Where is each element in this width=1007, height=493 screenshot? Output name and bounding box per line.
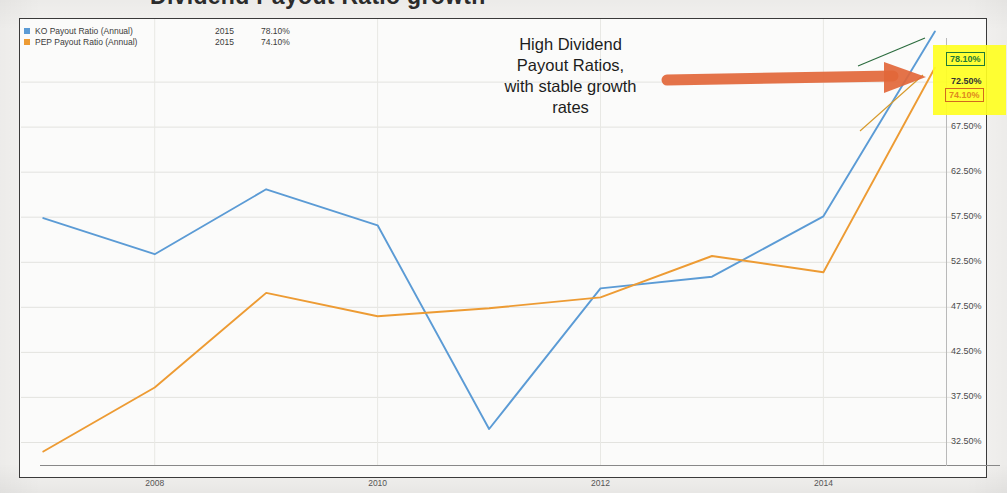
value-callout-pep: 74.10% <box>945 88 984 102</box>
y-tick-label: 47.50% <box>951 301 982 311</box>
y-tick-label: 57.50% <box>951 211 982 221</box>
annotation-line-3: with stable growth <box>463 76 678 97</box>
series-line-pep <box>43 68 935 452</box>
legend-year-ko: 2015 <box>215 26 261 37</box>
y-tick-label: 42.50% <box>951 346 982 356</box>
x-tick-label: 2008 <box>145 478 164 488</box>
y-tick-label: 52.50% <box>951 256 982 266</box>
legend-row-pep: PEP Payout Ratio (Annual)201574.10% <box>24 37 314 48</box>
legend-label-ko: KO Payout Ratio (Annual) <box>35 26 215 37</box>
y-tick-label: 67.50% <box>951 121 982 131</box>
x-tick-label: 2010 <box>368 478 387 488</box>
annotation-text-block: High Dividend Payout Ratios, with stable… <box>463 34 678 118</box>
x-axis-line <box>40 465 1000 466</box>
legend-swatch-pep <box>24 39 30 45</box>
legend-value-pep: 74.10% <box>261 37 290 48</box>
y-tick-label: 37.50% <box>951 391 982 401</box>
legend-label-pep: PEP Payout Ratio (Annual) <box>35 37 215 48</box>
y-tick-label: 32.50% <box>951 436 982 446</box>
title-text: Dividend Payout Ratio growth <box>150 0 486 10</box>
y-tick-label: 72.50% <box>951 76 982 86</box>
legend-value-ko: 78.10% <box>261 26 290 37</box>
value-callout-ko: 78.10% <box>946 52 985 66</box>
y-tick-label: 62.50% <box>951 166 982 176</box>
annotation-line-2: Payout Ratios, <box>463 55 678 76</box>
x-tick-label: 2012 <box>591 478 610 488</box>
legend-row-ko: KO Payout Ratio (Annual)201578.10% <box>24 26 314 37</box>
callout-leader-lines <box>858 38 925 131</box>
leader-line <box>860 75 923 131</box>
leader-line <box>858 38 925 66</box>
legend-year-pep: 2015 <box>215 37 261 48</box>
chart-legend: KO Payout Ratio (Annual)201578.10% PEP P… <box>24 26 314 48</box>
cropped-title: Dividend Payout Ratio growth <box>0 0 1007 14</box>
annotation-line-4: rates <box>463 97 678 118</box>
legend-swatch-ko <box>24 28 30 34</box>
annotation-line-1: High Dividend <box>463 34 678 55</box>
x-tick-label: 2014 <box>814 478 833 488</box>
